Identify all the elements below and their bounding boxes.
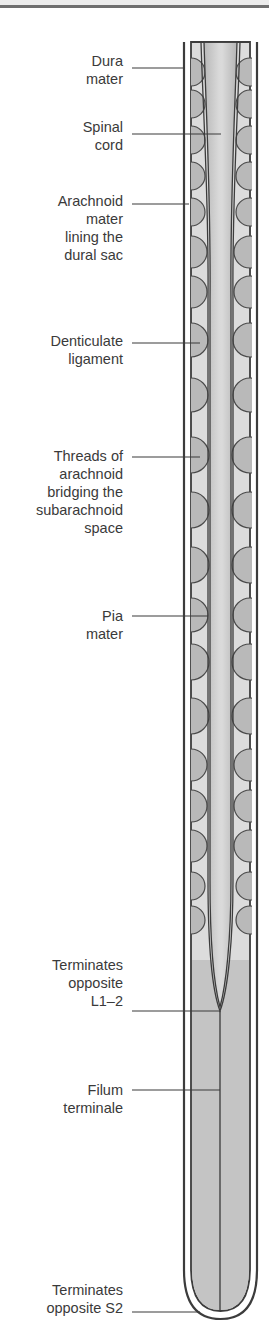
label-pia-mater: Pia mater bbox=[86, 607, 123, 643]
label-filum-terminale: Filum terminale bbox=[63, 1081, 123, 1117]
label-dura-mater: Dura mater bbox=[86, 52, 123, 88]
label-arachnoid-threads: Threads of arachnoid bridging the subara… bbox=[36, 447, 123, 537]
label-spinal-cord: Spinal cord bbox=[83, 118, 123, 154]
label-denticulate-ligament: Denticulate ligament bbox=[50, 332, 123, 368]
label-arachnoid-mater: Arachnoid mater lining the dural sac bbox=[58, 192, 123, 264]
label-cord-termination: Terminates opposite L1–2 bbox=[52, 956, 123, 1010]
spinal-cord-diagram bbox=[0, 0, 269, 1328]
label-sac-termination: Terminates opposite S2 bbox=[46, 1281, 123, 1317]
